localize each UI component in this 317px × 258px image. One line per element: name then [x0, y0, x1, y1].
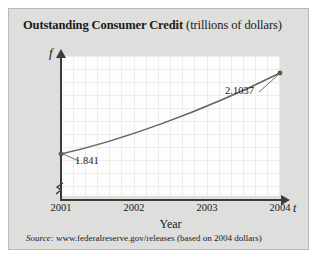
plot-area	[61, 56, 280, 196]
data-label-start: 1.841	[75, 155, 99, 166]
source-note: Source: www.federalreserve.gov/releases …	[26, 233, 262, 243]
data-label-end: 2.1037	[225, 85, 254, 96]
chart-title-main: Outstanding Consumer Credit	[23, 18, 183, 32]
x-tick-label-2003: 2003	[185, 202, 229, 213]
y-axis-arrow-icon	[56, 49, 66, 58]
x-tick-label-2001: 2001	[39, 202, 83, 213]
y-axis-line	[60, 56, 62, 201]
x-tick-label-2004: 2004	[258, 202, 302, 213]
figure-panel: Outstanding Consumer Credit (trillions o…	[8, 8, 309, 250]
x-axis-title: Year	[61, 217, 280, 232]
axis-break-icon	[53, 181, 71, 197]
y-axis-variable-label: f	[49, 45, 53, 61]
source-keyword: Source:	[26, 233, 54, 243]
source-text: www.federalreserve.gov/releases (based o…	[54, 233, 262, 243]
chart-title-units: (trillions of dollars)	[183, 18, 282, 32]
x-axis-line	[61, 199, 283, 201]
x-tick-label-2002: 2002	[112, 202, 156, 213]
grid-lines	[61, 56, 280, 196]
chart-title: Outstanding Consumer Credit (trillions o…	[23, 18, 303, 33]
